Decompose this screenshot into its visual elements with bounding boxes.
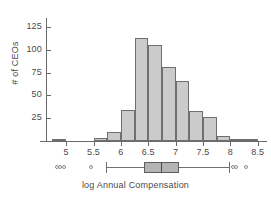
x-axis-tick-label: 8.5 [243,147,271,157]
boxplot [0,160,271,176]
x-axis-tick-label: 6.5 [133,147,163,157]
boxplot-outlier-point [234,165,238,169]
histogram-bar [107,132,121,141]
histogram-bar [162,67,176,141]
histogram-bar [176,81,190,141]
histogram-boxplot-figure: # of CEOs 255075100125 55.566.577.588.5 … [0,0,271,199]
x-axis-tick [176,141,177,146]
x-axis-tick [94,141,95,146]
boxplot-outlier-point [58,165,62,169]
x-axis-tick [66,141,67,146]
x-axis-label: log Annual Compensation [0,180,271,190]
y-axis-tick-label: 75 [8,67,42,77]
boxplot-median-line [161,162,162,173]
x-axis-tick [148,141,149,146]
x-axis-tick-label: 6 [106,147,136,157]
x-axis-tick-label: 8 [215,147,245,157]
x-axis-tick-label: 7 [161,147,191,157]
histogram-bar [135,38,149,141]
boxplot-outlier-point [244,165,248,169]
x-axis-tick [121,141,122,146]
y-axis-tick-label: 125 [8,21,42,31]
boxplot-whisker-cap-low [106,162,107,173]
histogram-bar [148,45,162,141]
x-axis-tick [258,141,259,146]
histogram-bar [121,110,135,141]
y-axis-tick-label: 25 [8,112,42,122]
histogram-plot-area [47,18,266,141]
histogram-bar [203,117,217,141]
x-axis-tick [230,141,231,146]
x-axis-tick-label: 5 [51,147,81,157]
y-axis-tick-label: 50 [8,89,42,99]
boxplot-outlier-point [89,165,93,169]
y-axis-tick-label: 100 [8,44,42,54]
x-axis-tick-label: 7.5 [188,147,218,157]
boxplot-outlier-point [62,165,66,169]
histogram-bar [189,111,203,141]
x-axis-line [40,141,267,142]
x-axis-tick-label: 5.5 [79,147,109,157]
x-axis-tick [203,141,204,146]
